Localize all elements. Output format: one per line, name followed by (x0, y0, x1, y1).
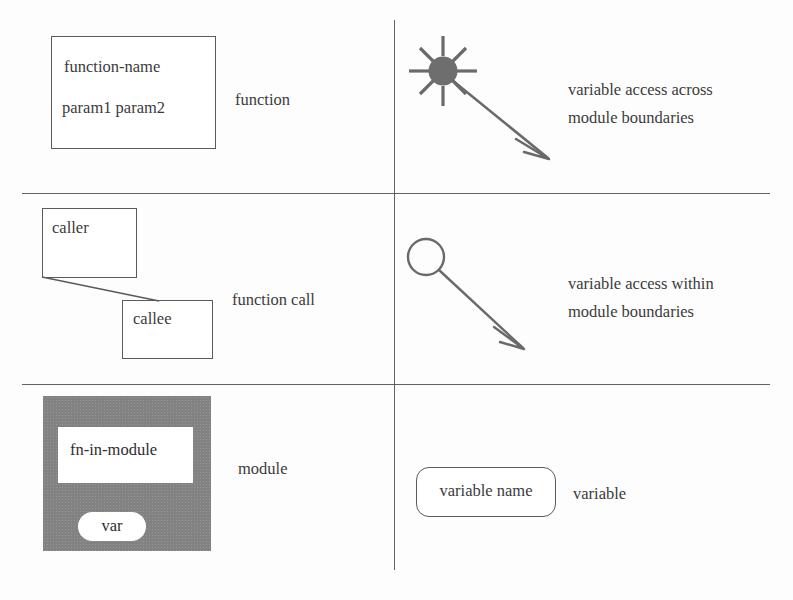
function-name-text: function-name (64, 57, 160, 77)
module-box: fn-in-module var (43, 396, 211, 551)
variable-box: variable name (416, 467, 556, 517)
module-inner-function-text: fn-in-module (70, 440, 157, 460)
variable-access-across-label-line2: module boundaries (568, 104, 694, 131)
caller-text: caller (52, 218, 89, 238)
function-box: function-name param1 param2 (51, 36, 216, 149)
variable-label: variable (573, 480, 626, 507)
function-call-label: function call (232, 286, 315, 313)
function-label: function (235, 86, 290, 113)
variable-access-within-label-line1: variable access within (568, 270, 714, 297)
variable-name-text: variable name (417, 481, 555, 501)
vertical-divider (394, 20, 395, 570)
callee-box: callee (122, 300, 213, 359)
legend-diagram: function-name param1 param2 function var… (0, 0, 793, 600)
callee-text: callee (133, 309, 171, 329)
module-label: module (238, 455, 288, 482)
variable-access-within-label-line2: module boundaries (568, 298, 694, 325)
horizontal-divider-1 (22, 193, 770, 194)
caller-box: caller (42, 208, 137, 278)
variable-access-across-label-line1: variable access across (568, 76, 713, 103)
horizontal-divider-2 (22, 384, 770, 385)
function-params-text: param1 param2 (62, 98, 165, 118)
module-inner-variable-text: var (78, 516, 146, 536)
module-inner-variable-pill: var (78, 512, 146, 541)
module-inner-function-box: fn-in-module (58, 427, 193, 483)
